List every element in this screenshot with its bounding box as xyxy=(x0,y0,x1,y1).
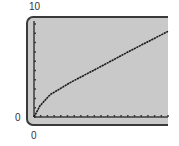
axes xyxy=(34,21,168,117)
function-curve xyxy=(34,31,168,117)
plot-area xyxy=(0,0,179,146)
